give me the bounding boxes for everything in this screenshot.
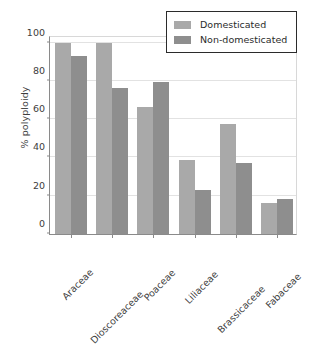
x-tick-label-araceae: Araceae — [87, 239, 122, 274]
plot-area: 020406080100 AraceaeDioscoreaceaePoaceae… — [49, 36, 297, 235]
y-tick-label: 60 — [33, 103, 45, 114]
bar-poaceae-non-domesticated — [153, 82, 169, 234]
x-tick-label-dioscoreaceae: Dioscoreaceae — [137, 239, 194, 296]
bar-brassicaceae-domesticated — [220, 124, 236, 234]
y-tick-label: 20 — [33, 179, 45, 190]
x-tick-mark — [236, 234, 237, 238]
bar-liliaceae-non-domesticated — [195, 190, 211, 234]
x-tick-mark — [195, 234, 196, 238]
y-tick-label: 100 — [27, 26, 45, 37]
y-tick-label: 40 — [33, 141, 45, 152]
bar-poaceae-domesticated — [137, 107, 153, 234]
x-tick-mark — [153, 234, 154, 238]
x-tick-label-liliaceae: Liliaceae — [212, 239, 249, 276]
y-tick-label: 80 — [33, 64, 45, 75]
bar-dioscoreaceae-domesticated — [96, 43, 112, 234]
y-tick-label: 0 — [39, 218, 45, 229]
bar-dioscoreaceae-non-domesticated — [112, 88, 128, 234]
legend-color-swatch — [174, 21, 191, 29]
chart-legend: DomesticatedNon-domesticated — [166, 11, 297, 53]
x-tick-mark — [112, 234, 113, 238]
bar-series-group — [50, 37, 296, 234]
x-tick-label-text: Araceae — [60, 267, 95, 302]
bar-fabaceae-domesticated — [261, 203, 277, 234]
legend-label: Non-domesticated — [200, 34, 287, 45]
bar-liliaceae-domesticated — [179, 160, 195, 234]
legend-color-swatch — [174, 36, 191, 44]
legend-item-domesticated: Domesticated — [174, 17, 287, 32]
bar-brassicaceae-non-domesticated — [236, 163, 252, 234]
y-axis-label: % polyploidy — [19, 48, 30, 188]
x-tick-label-text: Liliaceae — [182, 269, 219, 306]
bar-araceae-non-domesticated — [71, 56, 87, 234]
legend-item-non-domesticated: Non-domesticated — [174, 32, 287, 47]
bar-araceae-domesticated — [55, 43, 71, 234]
bar-fabaceae-non-domesticated — [277, 199, 293, 234]
x-tick-mark — [71, 234, 72, 238]
legend-label: Domesticated — [200, 19, 266, 30]
x-tick-mark — [277, 234, 278, 238]
x-tick-label-text: Dioscoreaceae — [88, 288, 145, 345]
x-tick-label-text: Brassicaceae — [215, 283, 267, 335]
